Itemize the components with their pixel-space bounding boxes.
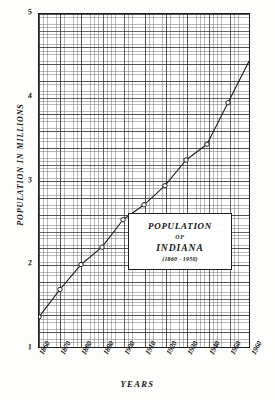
data-point-1880 [79,262,83,266]
chart-year-range: (1860 - 1950) [162,256,198,262]
series-markers [39,101,230,319]
plot-area [38,13,250,348]
data-point-1900 [121,218,125,222]
chart-subtitle: INDIANA [156,243,204,253]
series-polyline [39,61,249,317]
chart-title: POPULATION [148,221,212,231]
chart-title-connector: OF [175,234,184,240]
y-tick-label-1: 1 [17,342,32,353]
chart-page: 12345 1860187018801890190019101920193019… [0,0,275,400]
chart-title-box: POPULATION OF INDIANA (1860 - 1950) [128,213,232,270]
y-tick-label-2: 2 [17,258,32,269]
data-point-1950 [226,101,230,105]
x-tick-label-1960: 1960 [249,339,264,356]
x-axis-title: YEARS [0,379,275,389]
data-point-1890 [100,245,104,249]
data-point-1860 [39,315,41,319]
y-axis-title: POPULATION IN MILLIONS [16,90,25,240]
population-line-series [39,14,249,346]
y-tick-label-5: 5 [17,7,32,18]
data-point-1910 [142,203,146,207]
data-point-1930 [184,158,188,162]
data-point-1870 [58,287,62,291]
data-point-1920 [163,184,167,188]
data-point-1940 [205,142,209,146]
